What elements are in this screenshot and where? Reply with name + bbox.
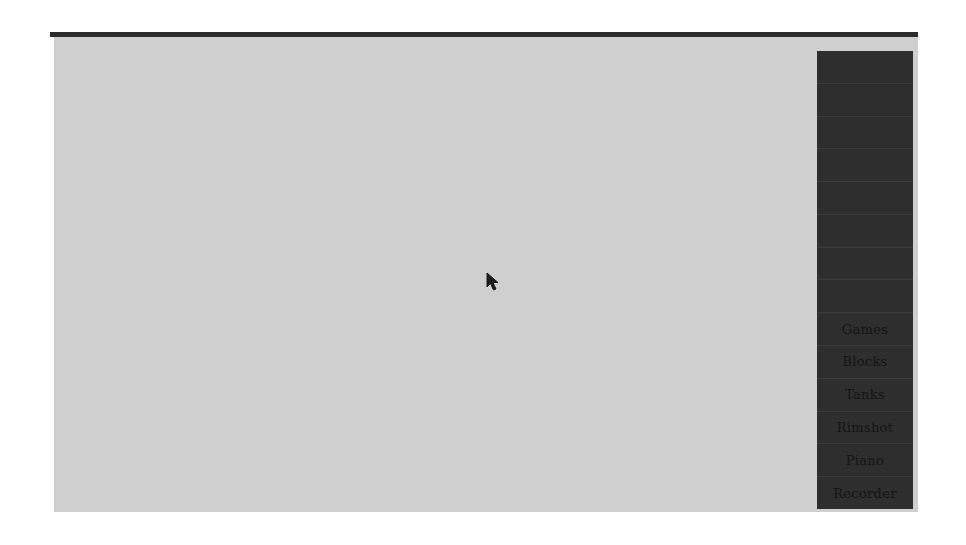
menu-item-2[interactable]: [817, 84, 913, 117]
menu-item-games[interactable]: Games: [817, 313, 913, 346]
screen: Games Blocks Tanks Rimshot Piano Recorde…: [0, 0, 966, 545]
menu-item-8[interactable]: [817, 280, 913, 313]
menu-item-6[interactable]: [817, 215, 913, 248]
app-menu-panel: Games Blocks Tanks Rimshot Piano Recorde…: [817, 51, 913, 509]
menu-item-1[interactable]: [817, 51, 913, 84]
menu-item-3[interactable]: [817, 117, 913, 150]
menu-item-piano[interactable]: Piano: [817, 444, 913, 477]
menu-item-rimshot[interactable]: Rimshot: [817, 412, 913, 445]
menu-item-4[interactable]: [817, 149, 913, 182]
menu-item-blocks[interactable]: Blocks: [817, 346, 913, 379]
menu-item-5[interactable]: [817, 182, 913, 215]
arrow-pointer-icon: [486, 272, 500, 292]
menu-item-recorder[interactable]: Recorder: [817, 477, 913, 509]
menu-item-7[interactable]: [817, 248, 913, 281]
menu-item-tanks[interactable]: Tanks: [817, 379, 913, 412]
